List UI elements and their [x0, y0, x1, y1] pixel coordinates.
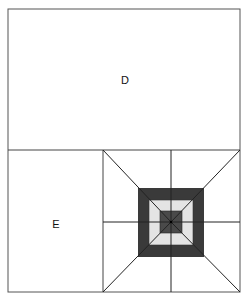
center-point: [170, 221, 173, 224]
region-label-d: D: [121, 74, 129, 86]
region-label-e: E: [52, 218, 59, 230]
diagram-canvas: D E: [0, 0, 249, 302]
